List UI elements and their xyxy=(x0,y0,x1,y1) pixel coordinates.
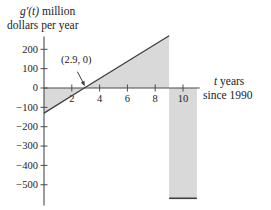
y-axis-title-suffix: million xyxy=(39,5,75,17)
y-axis-variable: g′(t) xyxy=(20,5,39,17)
y-tick-label--300: −300 xyxy=(16,140,38,151)
y-tick-label--200: −200 xyxy=(16,121,38,132)
y-tick-label-0: 0 xyxy=(33,82,38,93)
derivative-graph-figure: 2001000−100−200−300−400−500246810 g′(t) … xyxy=(0,0,271,210)
x-axis-title-line2: since 1990 xyxy=(203,88,253,102)
y-axis-title: g′(t) million dollars per year xyxy=(7,4,79,32)
x-tick-label-4: 4 xyxy=(97,93,103,104)
x-tick-label-6: 6 xyxy=(125,93,130,104)
x-axis-title: t years since 1990 xyxy=(203,74,253,102)
y-tick-label--500: −500 xyxy=(16,179,38,190)
annotation-arrowhead xyxy=(81,81,85,86)
shaded-region-negative-right xyxy=(169,88,197,198)
y-axis-title-line1: g′(t) million xyxy=(20,4,79,18)
annotation-arrow-shaft xyxy=(77,72,82,82)
x-axis-title-suffix: years xyxy=(217,75,244,87)
x-tick-label-10: 10 xyxy=(178,93,189,104)
y-tick-label-100: 100 xyxy=(22,63,38,74)
y-tick-label--100: −100 xyxy=(16,102,38,113)
x-axis-title-line1: t years xyxy=(214,74,253,88)
y-tick-label-200: 200 xyxy=(22,44,38,55)
zero-crossing-label: (2.9, 0) xyxy=(61,54,92,65)
y-axis-title-line2: dollars per year xyxy=(7,18,79,32)
y-tick-label--400: −400 xyxy=(16,160,38,171)
x-tick-label-8: 8 xyxy=(153,93,158,104)
